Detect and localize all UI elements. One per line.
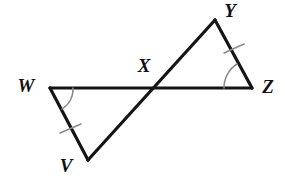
angle-arc-Z [224,64,237,88]
angle-arc-W [62,88,73,109]
geometry-figure: W V X Y Z [0,0,285,178]
vertex-label-Z: Z [261,76,274,97]
segment-YZ [215,20,252,88]
vertex-label-Y: Y [224,0,238,21]
segment-VY [88,20,215,160]
segment-WV [50,88,88,160]
vertex-label-V: V [60,155,74,176]
vertex-label-W: W [18,75,36,96]
diagram-canvas: W V X Y Z [0,0,285,178]
vertex-label-X: X [137,55,152,76]
